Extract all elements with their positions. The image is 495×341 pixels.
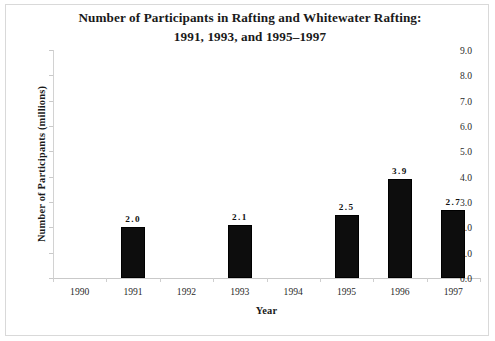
x-axis-tick-label: 1994 (263, 286, 323, 297)
bar-value-label: 2.1 (232, 212, 248, 222)
bar-value-label: 3.9 (392, 166, 408, 176)
x-axis-tick-label: 1992 (156, 286, 216, 297)
x-axis-tick-mark (320, 278, 321, 282)
x-axis-title: Year (53, 305, 480, 316)
chart-title-line2: 1991, 1993, and 1995–1997 (40, 27, 460, 46)
bar-slot (53, 50, 106, 278)
x-axis-tick-mark (160, 278, 161, 282)
bar-value-label: 2.5 (339, 202, 355, 212)
bar-value-label: 2.0 (125, 214, 141, 224)
chart-screenshot: Number of Participants in Rafting and Wh… (0, 0, 495, 341)
bar (335, 215, 359, 278)
bar-value-label: 2.7 (445, 197, 461, 207)
x-axis-tick-mark (427, 278, 428, 282)
bar-slot (160, 50, 213, 278)
x-axis-tick-label: 1996 (370, 286, 430, 297)
x-axis-tick-label: 1991 (103, 286, 163, 297)
bar-slot: 2.7 (427, 50, 480, 278)
chart-title: Number of Participants in Rafting and Wh… (40, 8, 460, 46)
x-axis-tick-label: 1990 (50, 286, 110, 297)
bar-slot (267, 50, 320, 278)
bar (121, 227, 145, 278)
x-axis-tick-mark (106, 278, 107, 282)
x-axis-tick-label: 1995 (317, 286, 377, 297)
x-axis-tick-mark (267, 278, 268, 282)
bar (228, 225, 252, 278)
bar-series: 2.02.12.53.92.7 (53, 50, 480, 278)
x-axis-tick-mark (373, 278, 374, 282)
plot-area: Number of Participants (millions) 9.08.0… (53, 50, 480, 278)
bar-slot: 2.1 (213, 50, 266, 278)
x-axis-tick-mark (480, 278, 481, 282)
x-axis-tick-label: 1993 (210, 286, 270, 297)
chart-title-line1: Number of Participants in Rafting and Wh… (78, 10, 421, 25)
x-axis-tick-label: 1997 (423, 286, 483, 297)
x-axis-tick-mark (213, 278, 214, 282)
bar-slot: 2.5 (320, 50, 373, 278)
bar-slot: 2.0 (106, 50, 159, 278)
y-axis-title: Number of Participants (millions) (36, 86, 47, 242)
bar (388, 179, 412, 278)
x-axis-tick-mark (53, 278, 54, 282)
bar (441, 210, 465, 278)
bar-slot: 3.9 (373, 50, 426, 278)
